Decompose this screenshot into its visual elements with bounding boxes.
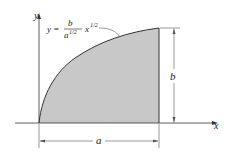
equation-lhs: y = bbox=[46, 24, 59, 34]
y-axis-label: y bbox=[33, 10, 39, 21]
diagram-canvas: y x b a y = b a 1/2 x 1/2 bbox=[0, 0, 231, 156]
curve-equation: y = b a 1/2 x 1/2 bbox=[46, 18, 98, 40]
b-arrow-top-icon bbox=[173, 29, 176, 35]
equation-variable: x bbox=[84, 24, 89, 34]
a-arrow-left-icon bbox=[40, 140, 46, 143]
equation-numerator: b bbox=[68, 18, 73, 28]
equation-variable-exp: 1/2 bbox=[90, 22, 98, 28]
equation-leader bbox=[99, 28, 120, 37]
width-label: a bbox=[96, 134, 102, 146]
a-arrow-right-icon bbox=[153, 140, 159, 143]
equation-denominator-exp: 1/2 bbox=[69, 29, 77, 35]
height-label: b bbox=[170, 70, 176, 82]
x-axis-label: x bbox=[213, 120, 219, 131]
b-arrow-bottom-icon bbox=[173, 117, 176, 123]
